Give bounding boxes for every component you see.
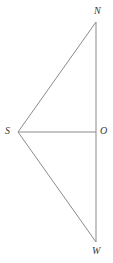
vertex-label-n: N: [94, 6, 101, 16]
vertex-label-o: O: [100, 126, 107, 136]
vertex-label-s: S: [5, 126, 10, 136]
segment-S-N: [18, 22, 96, 132]
vertex-label-w: W: [92, 246, 100, 256]
geometry-figure: N S O W: [0, 0, 113, 263]
figure-canvas: [0, 0, 113, 263]
segment-W-S: [18, 132, 96, 242]
